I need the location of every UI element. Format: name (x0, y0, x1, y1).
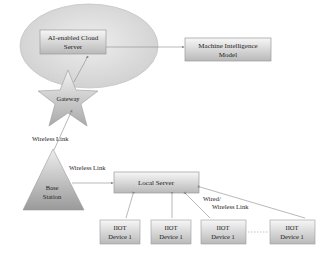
iiot-device-3-label-1: IIOT (217, 224, 230, 231)
iiot-device-2-label-2: Device 1 (159, 233, 182, 240)
mi-label-1: Machine Intelligence (198, 42, 257, 50)
machine-intelligence-node[interactable]: Machine Intelligence Model (185, 38, 271, 61)
wired-label-1: Wired/ (203, 195, 221, 202)
base-station-label-2: Station (43, 193, 62, 200)
base-station-node[interactable]: Base Station (23, 149, 84, 210)
iiot-device-2-label-1: IIOT (165, 224, 178, 231)
wired-label-2: Wireless Link (212, 203, 249, 210)
iiot-device-3-label-2: Device 1 (211, 233, 234, 240)
iiot-device-3[interactable]: IIOT Device 1 (201, 220, 246, 244)
iiot-device-4[interactable]: IIOT Device 1 (270, 220, 315, 244)
cloud-server-label-1: AI-enabled Cloud (48, 34, 99, 42)
iiot-device-1-label-2: Device 1 (108, 233, 131, 240)
edge-local-device-1 (126, 194, 133, 218)
iiot-device-1-label-1: IIOT (114, 224, 127, 231)
local-link-label: Wireless Link (69, 164, 106, 171)
mi-label-2: Model (219, 51, 237, 59)
iiot-device-1[interactable]: IIOT Device 1 (100, 220, 140, 244)
gateway-label: Gateway (56, 95, 80, 102)
iiot-device-4-label-1: IIOT (286, 224, 299, 231)
base-station-label-1: Base (46, 184, 59, 191)
local-server-node[interactable]: Local Server (114, 172, 199, 193)
iiot-device-4-label-2: Device 1 (280, 233, 303, 240)
cloud-server-node[interactable]: AI-enabled Cloud Server (40, 30, 106, 54)
local-server-label: Local Server (138, 179, 175, 187)
iiot-device-2[interactable]: IIOT Device 1 (151, 220, 191, 244)
architecture-diagram: AI-enabled Cloud Server Machine Intellig… (0, 0, 329, 257)
cloud-server-label-2: Server (64, 43, 83, 51)
gateway-link-label: Wireless Link (32, 135, 69, 142)
